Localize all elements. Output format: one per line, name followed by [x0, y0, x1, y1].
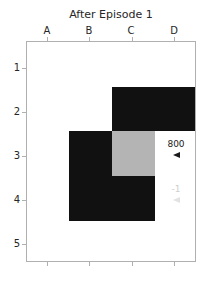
column-tick-b-bottom [89, 262, 90, 266]
annotation-cell-d4: -1 [155, 177, 196, 203]
row-label-4: 4 [8, 194, 20, 206]
figure-canvas: After Episode 1 A B C D 1 2 3 4 5 800 [0, 0, 207, 284]
grid-cell-c2 [112, 87, 196, 131]
annotation-value-d4: -1 [172, 184, 181, 194]
annotation-cell-d3: 800 [155, 132, 196, 158]
column-tick-a-bottom [47, 262, 48, 266]
arrow-left-faint-icon [173, 197, 180, 203]
column-label-a: A [40, 25, 54, 37]
grid-plot-area: 800 -1 [26, 41, 196, 262]
column-label-b: B [82, 25, 96, 37]
column-label-c: C [124, 25, 138, 37]
arrow-left-icon [173, 152, 180, 158]
annotation-value-d3: 800 [167, 139, 184, 149]
row-label-1: 1 [8, 62, 20, 74]
grid-cell-c3-highlight [112, 131, 155, 176]
grid-cell-b4 [69, 176, 155, 221]
grid-cell-b3 [69, 131, 112, 176]
row-label-5: 5 [8, 238, 20, 250]
page-title: After Episode 1 [26, 8, 196, 21]
row-label-3: 3 [8, 150, 20, 162]
column-tick-c-bottom [132, 262, 133, 266]
row-label-2: 2 [8, 106, 20, 118]
column-tick-d-bottom [174, 262, 175, 266]
column-label-d: D [167, 25, 181, 37]
